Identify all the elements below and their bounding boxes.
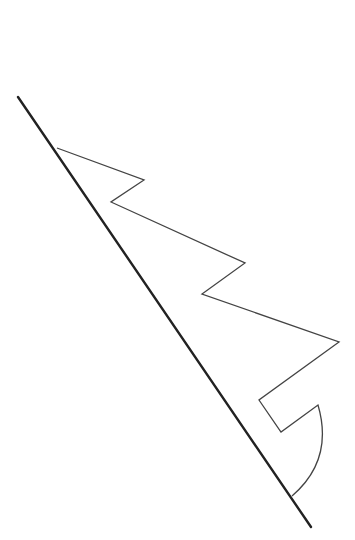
- fold-line: [18, 97, 311, 527]
- diagram-canvas: [0, 0, 355, 540]
- cut-outline: [57, 148, 339, 496]
